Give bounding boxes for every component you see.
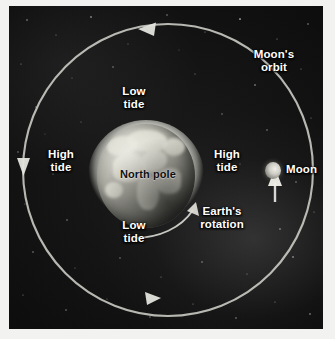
label-high-tide-right: High tide: [202, 148, 252, 173]
label-moon: Moon: [286, 163, 332, 176]
label-north-pole: North pole: [104, 168, 192, 181]
tides-diagram: Moon's orbit Low tide High tide High tid…: [0, 0, 335, 339]
moon-sphere: [265, 162, 281, 179]
label-high-tide-left: High tide: [36, 148, 86, 173]
orbit-arrow-bottom: [145, 292, 161, 305]
label-moons-orbit: Moon's orbit: [236, 48, 312, 73]
label-low-tide-bottom: Low tide: [107, 219, 161, 244]
label-earths-rotation: Earth's rotation: [190, 205, 254, 230]
orbit-arrow-left: [17, 158, 30, 176]
label-low-tide-top: Low tide: [107, 85, 161, 110]
